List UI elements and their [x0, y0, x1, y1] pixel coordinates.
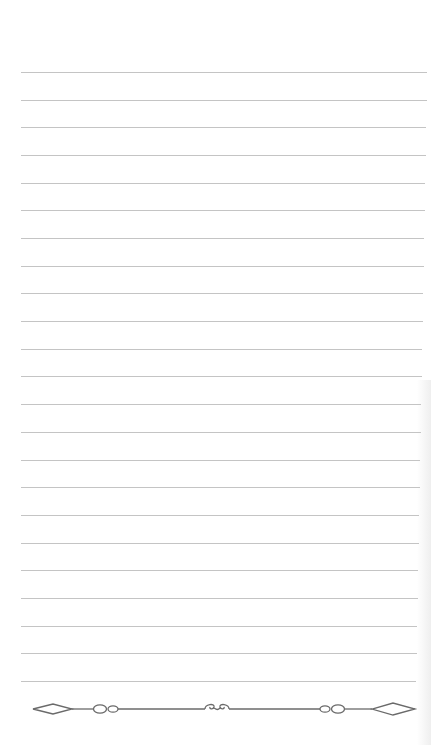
- ruled-line: [21, 404, 421, 405]
- ruled-line: [21, 432, 421, 433]
- ruled-line: [21, 127, 426, 128]
- ruled-line: [21, 238, 424, 239]
- center-swirl-icon: [205, 705, 229, 710]
- left-circle-large-icon: [94, 705, 107, 713]
- ruled-line: [21, 155, 426, 156]
- ruled-line: [21, 183, 425, 184]
- ruled-line: [21, 515, 419, 516]
- ruled-line: [21, 349, 422, 350]
- ruled-line: [21, 321, 423, 322]
- ruled-line: [21, 210, 425, 211]
- right-circle-large-icon: [332, 705, 345, 713]
- ruled-line: [21, 543, 419, 544]
- ruled-line: [21, 376, 422, 377]
- ruled-line: [21, 653, 417, 654]
- left-diamond-icon: [33, 704, 72, 714]
- ruled-line: [21, 72, 427, 73]
- right-diamond-icon: [372, 703, 415, 715]
- ornamental-divider: [0, 690, 431, 730]
- ruled-line: [21, 598, 418, 599]
- ruled-line: [21, 100, 427, 101]
- ruled-line: [21, 266, 424, 267]
- ruled-line: [21, 460, 420, 461]
- right-circle-small-icon: [320, 706, 330, 712]
- ruled-line: [21, 293, 423, 294]
- ruled-line: [21, 626, 417, 627]
- ruled-line: [21, 681, 416, 682]
- ruled-line: [21, 570, 418, 571]
- ruled-line: [21, 487, 420, 488]
- notebook-page: [0, 0, 431, 745]
- left-circle-small-icon: [108, 706, 118, 712]
